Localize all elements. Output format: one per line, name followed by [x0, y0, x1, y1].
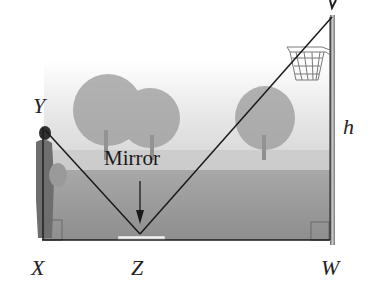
v-label-partial	[330, 0, 336, 8]
mirror	[118, 236, 165, 239]
similar-triangles-mirror-diagram: Y Mirror h X Z W	[0, 0, 374, 283]
label-h: h	[343, 116, 354, 138]
label-x: X	[31, 257, 44, 279]
label-w: W	[321, 257, 339, 279]
mirror-label: Mirror	[104, 148, 160, 169]
basketball-pole	[330, 15, 335, 245]
diagram-graphic	[0, 0, 374, 283]
label-y: Y	[33, 95, 45, 117]
label-z: Z	[131, 257, 143, 279]
